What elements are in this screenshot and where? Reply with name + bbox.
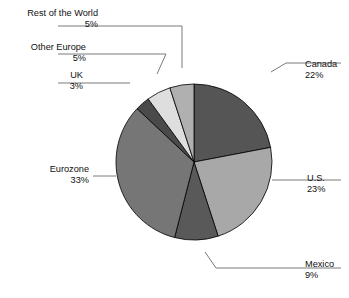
slice-label-name: U.S.: [307, 173, 325, 183]
slice-label-percent: 5%: [85, 19, 98, 29]
slice-label-name: Mexico: [305, 259, 334, 269]
slice-label-name: Other Europe: [31, 42, 86, 52]
slice-label-percent: 22%: [305, 70, 323, 80]
slice-label-percent: 3%: [70, 81, 83, 91]
pie-slices-group: [116, 84, 272, 240]
slice-label-name: Canada: [305, 59, 338, 69]
slice-label-name: Rest of the World: [27, 8, 98, 18]
pie-chart-figure: Canada22%U.S.23%Mexico9%Eurozone33%UK3%O…: [0, 0, 349, 298]
slice-label-percent: 23%: [307, 184, 325, 194]
slice-label-percent: 9%: [305, 270, 318, 280]
slice-label-name: Eurozone: [50, 164, 89, 174]
slice-label-name: UK: [70, 70, 84, 80]
pie-chart-svg: Canada22%U.S.23%Mexico9%Eurozone33%UK3%O…: [0, 0, 349, 298]
slice-label-percent: 5%: [73, 53, 86, 63]
slice-label-percent: 33%: [71, 175, 89, 185]
